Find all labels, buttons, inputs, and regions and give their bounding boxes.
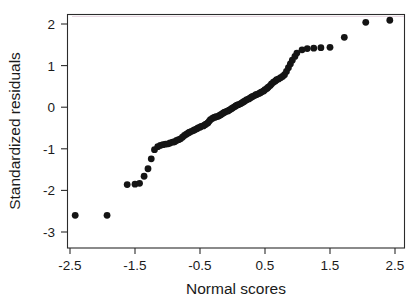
y-tick-label: 2 [47, 17, 55, 32]
x-tick-label: 0.5 [256, 258, 275, 273]
y-axis-label: Standardized residuals [6, 52, 23, 210]
qq-plot-figure: -2.5 -1.5 -0.5 0.5 1.5 2.5 2 1 0 -1 -2 -… [0, 0, 420, 305]
x-tick-label: -0.5 [188, 258, 211, 273]
data-point [124, 181, 131, 188]
data-point [362, 19, 369, 26]
data-point [104, 212, 111, 219]
data-point [327, 44, 334, 51]
data-point [310, 45, 317, 52]
data-point [386, 17, 393, 24]
x-axis-label: Normal scores [186, 280, 286, 297]
data-point [304, 45, 311, 52]
y-tick-label: -2 [43, 183, 55, 198]
data-point [318, 44, 325, 51]
x-tick-label: 1.5 [321, 258, 340, 273]
x-tick-label: -2.5 [58, 258, 81, 273]
data-point [136, 180, 143, 187]
data-point [72, 212, 79, 219]
data-point [148, 155, 155, 162]
y-tick-label: 0 [47, 100, 55, 115]
data-point [341, 34, 348, 41]
data-point [145, 165, 152, 172]
x-tick-label: -1.5 [123, 258, 146, 273]
data-point [141, 173, 148, 180]
y-tick-label: -1 [43, 142, 55, 157]
y-tick-label: -3 [43, 225, 55, 240]
y-tick-label: 1 [47, 59, 55, 74]
x-tick-label: 2.5 [386, 258, 405, 273]
